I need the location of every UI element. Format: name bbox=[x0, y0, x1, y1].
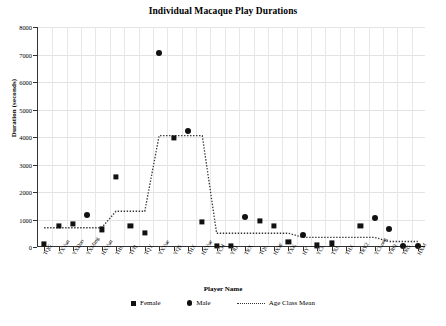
plot-area bbox=[37, 27, 425, 247]
gridline-vertical bbox=[139, 27, 140, 246]
gridline-vertical bbox=[354, 27, 355, 246]
legend-label-male: Male bbox=[196, 299, 210, 307]
data-point-female bbox=[128, 223, 133, 228]
gridline-vertical bbox=[81, 27, 82, 246]
gridline-vertical bbox=[196, 27, 197, 246]
gridline-vertical bbox=[167, 27, 168, 246]
y-axis-tick-label: 6000 bbox=[19, 79, 32, 86]
data-point-female bbox=[171, 136, 176, 141]
gridline-vertical bbox=[153, 27, 154, 246]
y-axis-tick-label: 5000 bbox=[19, 106, 32, 113]
y-axis-tick-label: 2000 bbox=[19, 189, 32, 196]
gridline-vertical bbox=[412, 27, 413, 246]
gridline-vertical bbox=[254, 27, 255, 246]
gridline-vertical bbox=[52, 27, 53, 246]
y-axis-tick-mark bbox=[33, 82, 37, 83]
legend-item-age-class-mean: Age Class Mean bbox=[237, 299, 315, 307]
legend-item-female: Female bbox=[131, 299, 161, 307]
y-axis-tick-mark bbox=[33, 110, 37, 111]
circle-marker-icon bbox=[187, 300, 193, 306]
gridline-vertical bbox=[340, 27, 341, 246]
y-axis-tick-label: 0 bbox=[29, 244, 32, 251]
data-point-male bbox=[185, 128, 191, 134]
chart-title: Individual Macaque Play Durations bbox=[0, 6, 446, 16]
legend-label-age-class-mean: Age Class Mean bbox=[269, 299, 315, 307]
gridline-vertical bbox=[239, 27, 240, 246]
data-point-male bbox=[386, 226, 392, 232]
gridline-vertical bbox=[124, 27, 125, 246]
legend-item-male: Male bbox=[187, 299, 211, 307]
data-point-female bbox=[200, 220, 205, 225]
y-axis-tick-label: 1000 bbox=[19, 216, 32, 223]
y-axis-tick-label: 3000 bbox=[19, 161, 32, 168]
gridline-vertical bbox=[397, 27, 398, 246]
y-axis-tick-mark bbox=[33, 27, 37, 28]
dotted-line-icon bbox=[237, 303, 265, 304]
data-point-female bbox=[358, 223, 363, 228]
gridline-vertical bbox=[369, 27, 370, 246]
data-point-female bbox=[257, 218, 262, 223]
x-axis-tick-labels: TQGYXYunYXDuoYXMingHXYunTHLTFHTQYYXYueYQ… bbox=[0, 251, 446, 289]
data-point-female bbox=[70, 221, 75, 226]
y-axis-tick-label: 4000 bbox=[19, 134, 32, 141]
y-axis-tick-mark bbox=[33, 165, 37, 166]
gridline-vertical bbox=[182, 27, 183, 246]
data-point-male bbox=[84, 212, 90, 218]
y-axis-tick-label: 8000 bbox=[19, 24, 32, 31]
chart-container: Individual Macaque Play Durations Durati… bbox=[0, 0, 446, 326]
data-point-female bbox=[272, 224, 277, 229]
gridline-vertical bbox=[325, 27, 326, 246]
gridline-vertical bbox=[210, 27, 211, 246]
data-point-female bbox=[142, 230, 147, 235]
y-axis-tick-mark bbox=[33, 192, 37, 193]
gridline-vertical bbox=[225, 27, 226, 246]
gridline-vertical bbox=[383, 27, 384, 246]
gridline-vertical bbox=[268, 27, 269, 246]
gridline-vertical bbox=[95, 27, 96, 246]
data-point-male bbox=[372, 215, 378, 221]
y-axis-tick-mark bbox=[33, 55, 37, 56]
gridline-vertical bbox=[282, 27, 283, 246]
chart-legend: Female Male Age Class Mean bbox=[0, 299, 446, 307]
data-point-female bbox=[99, 227, 104, 232]
data-point-male bbox=[156, 50, 162, 56]
gridline-vertical bbox=[67, 27, 68, 246]
gridline-vertical bbox=[110, 27, 111, 246]
y-axis-tick-mark bbox=[33, 220, 37, 221]
data-point-female bbox=[56, 224, 61, 229]
y-axis-tick-mark bbox=[33, 137, 37, 138]
y-axis-tick-label: 7000 bbox=[19, 51, 32, 58]
data-point-female bbox=[113, 174, 118, 179]
square-marker-icon bbox=[131, 301, 136, 306]
x-axis-title: Player Name bbox=[0, 285, 446, 293]
y-axis-tick-mark bbox=[33, 247, 37, 248]
gridline-vertical bbox=[311, 27, 312, 246]
data-point-male bbox=[300, 232, 306, 238]
legend-label-female: Female bbox=[140, 299, 161, 307]
gridline-vertical bbox=[297, 27, 298, 246]
y-axis-tick-labels: 010002000300040005000600070008000 bbox=[0, 27, 35, 247]
data-point-male bbox=[242, 214, 248, 220]
